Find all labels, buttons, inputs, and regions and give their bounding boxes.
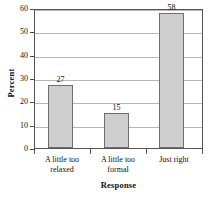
y-tick-label-30: 30 <box>10 75 28 83</box>
x-axis-title: Response <box>34 180 203 190</box>
bar-value-label-formal: 15 <box>104 103 129 112</box>
x-label-formal-line2: formal <box>90 165 146 175</box>
y-tick-label-10: 10 <box>10 122 28 130</box>
bar-just-right[interactable] <box>159 13 184 148</box>
plot-area: 27 15 58 <box>34 9 203 149</box>
x-label-just-right-line1: Just right <box>146 155 202 165</box>
x-label-formal-line1: A little too <box>90 155 146 165</box>
category-separator-left <box>34 149 35 154</box>
x-label-relaxed-line1: A little too <box>34 155 90 165</box>
bar-a-little-too-formal[interactable] <box>104 113 129 148</box>
x-label-relaxed-line2: relaxed <box>34 165 90 175</box>
bars-layer: 27 15 58 <box>35 10 202 148</box>
x-label-a-little-too-relaxed: A little too relaxed <box>34 155 90 175</box>
bar-chart-figure: Percent 60 50 40 30 20 10 0 27 15 58 <box>0 0 212 197</box>
bar-value-label-just-right: 58 <box>159 3 184 12</box>
bar-a-little-too-relaxed[interactable] <box>48 85 73 148</box>
x-axis-category-labels: A little too relaxed A little too formal… <box>34 155 203 179</box>
y-tick-label-40: 40 <box>10 52 28 60</box>
category-separator-2 <box>146 149 147 154</box>
y-tick-label-20: 20 <box>10 98 28 106</box>
category-separator-right <box>202 149 203 154</box>
y-tick-label-60: 60 <box>10 5 28 13</box>
bar-value-label-relaxed: 27 <box>48 75 73 84</box>
category-separator-1 <box>90 149 91 154</box>
x-label-just-right: Just right <box>146 155 202 165</box>
y-tick-label-50: 50 <box>10 28 28 36</box>
x-label-a-little-too-formal: A little too formal <box>90 155 146 175</box>
y-axis-tick-labels: 60 50 40 30 20 10 0 <box>10 9 28 149</box>
y-tick-label-0: 0 <box>10 145 28 153</box>
